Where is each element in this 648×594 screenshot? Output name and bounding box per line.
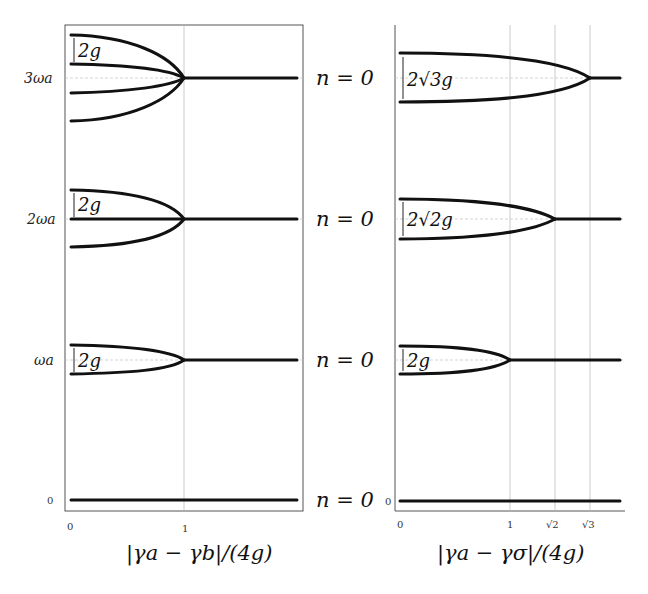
- curve: [71, 64, 184, 78]
- figure: 2g 2g 2g 3ωa 2ωa ωa 0 0 1 |γa − γb|/(4g): [0, 0, 648, 594]
- gap-label: 2g: [77, 350, 101, 371]
- level-labels: n = 0 n = 0 n = 0 n = 0: [316, 66, 374, 512]
- curve: [71, 78, 184, 93]
- left-xlabel: |γa − γb|/(4g): [126, 541, 272, 566]
- xtick-1: 1: [182, 523, 188, 534]
- level-label-0: n = 0: [316, 488, 374, 512]
- gap-label: 2√2g: [406, 209, 453, 230]
- gap-label: 2g: [406, 350, 430, 371]
- ytick-0: 0: [47, 495, 53, 506]
- level-label-3: n = 0: [316, 66, 374, 90]
- gap-label: 2g: [77, 194, 101, 215]
- right-xlabel: |γa − γσ|/(4g): [437, 541, 584, 566]
- ytick-2w: 2ωa: [26, 211, 56, 227]
- curve: [71, 219, 184, 247]
- right-xtick-0: 0: [397, 519, 403, 530]
- level-label-1: n = 0: [316, 348, 374, 372]
- right-xtick-1: 1: [507, 519, 513, 530]
- gap-label: 2√3g: [406, 69, 453, 90]
- left-panel: 2g 2g 2g 3ωa 2ωa ωa 0 0 1 |γa − γb|/(4g): [24, 25, 303, 566]
- ytick-w: ωa: [34, 352, 54, 368]
- xtick-0: 0: [67, 521, 73, 532]
- right-xtick-sqrt2: √2: [546, 519, 559, 530]
- right-xtick-sqrt3: √3: [582, 519, 595, 530]
- ytick-3w: 3ωa: [24, 70, 53, 86]
- right-ytick-0: 0: [385, 496, 391, 507]
- gap-label: 2g: [77, 40, 101, 61]
- right-panel: 2√3g 2√2g 2g 0 0 1 √2 √3 |γa − γσ|/(4g): [385, 25, 625, 566]
- level-label-2: n = 0: [316, 207, 374, 231]
